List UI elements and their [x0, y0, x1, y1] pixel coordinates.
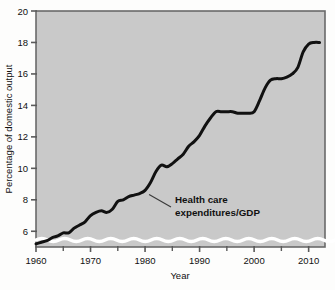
y-tick-label: 14: [17, 100, 28, 111]
y-tick-label: 20: [17, 6, 28, 17]
y-axis-ticks: 68101214161820: [17, 6, 37, 237]
y-tick-label: 12: [17, 131, 28, 142]
x-axis-ticks: 196019701980199020002010: [25, 246, 319, 266]
x-tick-label: 2000: [244, 255, 265, 266]
y-axis-title: Percentage of domestic output: [3, 64, 14, 193]
x-tick-label: 1980: [134, 255, 155, 266]
health-care-gdp-line-chart: 68101214161820 196019701980199020002010 …: [0, 0, 335, 290]
x-tick-label: 1960: [25, 255, 46, 266]
x-tick-label: 1970: [80, 255, 101, 266]
chart-figure: 68101214161820 196019701980199020002010 …: [0, 0, 335, 290]
y-tick-label: 18: [17, 37, 28, 48]
y-tick-label: 6: [23, 226, 28, 237]
x-axis-title: Year: [170, 270, 189, 281]
callout-label-line1: Health care: [175, 194, 228, 205]
x-tick-label: 2010: [298, 255, 319, 266]
x-tick-label: 1990: [189, 255, 210, 266]
y-tick-label: 8: [23, 194, 28, 205]
callout-label-line2: expenditures/GDP: [175, 207, 260, 218]
axis-break-wave: [36, 238, 335, 241]
y-tick-label: 16: [17, 68, 28, 79]
y-tick-label: 10: [17, 163, 28, 174]
